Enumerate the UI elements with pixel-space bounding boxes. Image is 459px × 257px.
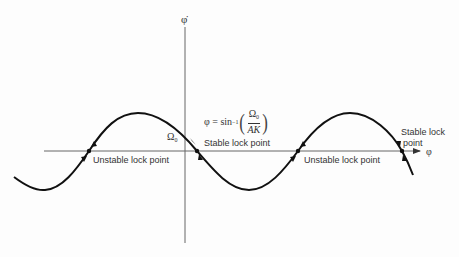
numerator-subscript: 0 bbox=[256, 114, 259, 120]
unstable-lock-point-label-2: Unstable lock point bbox=[304, 156, 380, 165]
unstable-lock-point-label-1: Unstable lock point bbox=[93, 156, 169, 165]
y-axis-label: φ̇ bbox=[181, 14, 187, 25]
formula-exponent: −1 bbox=[232, 119, 238, 125]
formula-lhs: φ = sin bbox=[204, 116, 232, 127]
stable-lock-point-label-2-line2: point bbox=[403, 139, 423, 148]
stable-lock-point-2 bbox=[400, 149, 404, 153]
omega0-label: Ω0 bbox=[167, 132, 177, 143]
stable-lock-point-label-2-line1: Stable lock bbox=[401, 128, 445, 137]
unstable-lock-point-1 bbox=[87, 149, 91, 153]
formula-numerator: Ω0 bbox=[248, 108, 260, 124]
formula-fraction: Ω0 AK bbox=[247, 108, 260, 135]
pll-phase-plane-diagram: φ̇ φ Ω0 φ = sin−1 ( Ω0 AK ) Unstable loc… bbox=[0, 0, 459, 257]
right-paren: ) bbox=[262, 110, 268, 134]
stable-lock-point-label-1: Stable lock point bbox=[204, 139, 270, 148]
omega-subscript: 0 bbox=[174, 137, 177, 143]
left-paren: ( bbox=[240, 110, 246, 134]
formula-denominator: AK bbox=[247, 124, 260, 135]
numerator-omega: Ω bbox=[249, 108, 256, 119]
x-axis-label: φ bbox=[426, 147, 432, 157]
stable-lock-point-1 bbox=[195, 149, 199, 153]
unstable-lock-point-2 bbox=[296, 149, 300, 153]
lock-point-formula: φ = sin−1 ( Ω0 AK ) bbox=[204, 108, 269, 135]
